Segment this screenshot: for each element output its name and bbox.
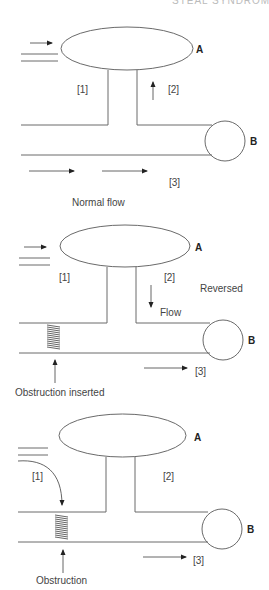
panel-caption: Obstruction [36, 575, 87, 586]
vessel-b [202, 509, 242, 549]
vessel-b-label: B [248, 335, 255, 346]
segment-label-3: [3] [169, 177, 180, 188]
segment-label-3: [3] [193, 555, 204, 566]
panel-caption: Normal flow [72, 197, 126, 208]
vessel-b-label: B [250, 136, 257, 147]
panel-obstruction: A B [1] [2] [3] Obstruction [18, 414, 254, 586]
segment-label-1: [1] [77, 84, 88, 95]
reversed-label: Reversed [200, 283, 243, 294]
obstruction-spring [55, 515, 68, 539]
segment-label-1: [1] [32, 471, 43, 482]
flow-label: Flow [160, 307, 182, 318]
vessel-b [205, 121, 245, 161]
diverted-flow-arrow [18, 461, 62, 505]
segment-label-2: [2] [163, 471, 174, 482]
segment-label-2: [2] [164, 272, 175, 283]
steal-syndrome-diagram: STEAL SYNDROME A B [1] [2] [3] Normal fl… [0, 0, 269, 590]
vessel-a-label: A [194, 432, 201, 443]
vessel-b-label: B [247, 524, 254, 535]
panel-caption: Obstruction inserted [15, 387, 105, 398]
segment-label-3: [3] [195, 366, 206, 377]
obstruction-spring [47, 325, 60, 349]
vessel-a-label: A [196, 44, 203, 55]
segment-label-1: [1] [59, 272, 70, 283]
vessel-a [61, 27, 193, 70]
vessel-a [60, 225, 190, 267]
branch-wall-right [135, 457, 208, 512]
header-title: STEAL SYNDROME [172, 0, 269, 6]
vessel-a-label: A [195, 242, 202, 253]
segment-label-2: [2] [168, 84, 179, 95]
panel-reversed-flow: A B [1] [2] Reversed Flow [3] Obstructio… [15, 225, 255, 398]
branch-wall-right [137, 70, 212, 125]
branch-wall-left [21, 70, 108, 125]
vessel-b [203, 320, 243, 360]
vessel-a [59, 414, 186, 457]
panel-normal-flow: A B [1] [2] [3] Normal flow [21, 27, 257, 208]
